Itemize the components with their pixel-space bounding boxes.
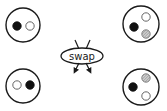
outer-circle	[6, 69, 40, 103]
diagram-svg: swap	[0, 0, 167, 111]
white-dot-icon	[142, 92, 150, 100]
black-dot-icon	[130, 23, 138, 31]
black-dot-icon	[13, 22, 21, 30]
white-dot-icon	[13, 81, 21, 89]
outer-circle	[6, 8, 40, 42]
white-dot-icon	[142, 13, 150, 21]
swap-diagram: swap	[0, 0, 167, 111]
state-top-left	[6, 8, 40, 42]
outer-circle	[123, 6, 159, 42]
white-dot-icon	[26, 22, 34, 30]
swap-label: swap	[69, 51, 95, 62]
state-bottom-left	[6, 69, 40, 103]
state-bottom-right	[123, 69, 159, 105]
hatch-dot-icon	[142, 30, 150, 38]
black-dot-icon	[26, 81, 34, 89]
black-dot-icon	[129, 83, 137, 91]
state-top-right	[123, 6, 159, 42]
hatch-dot-icon	[142, 74, 150, 82]
